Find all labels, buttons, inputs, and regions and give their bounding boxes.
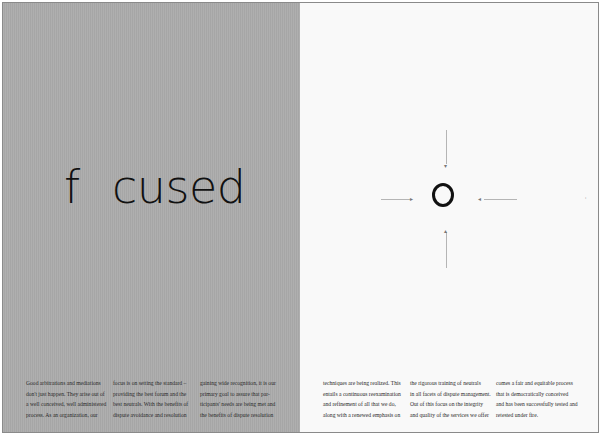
guide-line-left (381, 199, 411, 200)
text-line: along with a renewed emphasis on (323, 410, 375, 421)
text-line: the benefits of dispute resolution (200, 410, 252, 421)
text-line: and refinement of all that we do, (323, 399, 375, 410)
guide-line-top (446, 130, 447, 164)
text-line: in all facets of dispute management. (410, 389, 462, 400)
margin-mark: ' (585, 196, 586, 202)
text-line: Good arbitrations and mediations (26, 378, 78, 389)
text-line: focus is on setting the standard – (113, 378, 165, 389)
text-line: entails a continuous reexamination (323, 389, 375, 400)
text-line: ticipants' needs are being met and (200, 399, 252, 410)
text-line: dispute avoidance and resolution (113, 410, 165, 421)
text-line: retested under fire. (496, 410, 548, 421)
body-column-4: techniques are being realized. This enta… (323, 378, 375, 420)
left-page (3, 3, 300, 432)
body-column-3: gaining wide recognition, it is our prim… (200, 378, 252, 420)
arrow-left-icon: ◂ (478, 196, 481, 202)
text-line: the rigorous training of neutrals (410, 378, 462, 389)
body-column-6: comes a fair and equitable process that … (496, 378, 548, 420)
brochure-spread (3, 3, 598, 432)
body-column-2: focus is on setting the standard – provi… (113, 378, 165, 420)
guide-line-right (484, 199, 517, 200)
text-line: process. As an organization, our (26, 410, 78, 421)
arrow-up-icon: ▴ (444, 228, 447, 234)
text-line: and has been successfully tested and (496, 399, 548, 410)
text-line: don't just happen. They arise out of (26, 389, 78, 400)
guide-line-bottom (446, 232, 447, 268)
text-line: gaining wide recognition, it is our (200, 378, 252, 389)
text-line: that is democratically conceived (496, 389, 548, 400)
text-line: and quality of the services we offer (410, 410, 462, 421)
headline-f: f (64, 164, 80, 210)
arrow-right-icon: ▸ (410, 196, 413, 202)
right-page (300, 3, 598, 432)
body-column-1: Good arbitrations and mediations don't j… (26, 378, 78, 420)
body-column-5: the rigorous training of neutrals in all… (410, 378, 462, 420)
text-line: comes a fair and equitable process (496, 378, 548, 389)
headline-cused: cused (112, 164, 245, 210)
text-line: Out of this focus on the integrity (410, 399, 462, 410)
text-line: techniques are being realized. This (323, 378, 375, 389)
text-line: providing the best forum and the (113, 389, 165, 400)
text-line: primary goal to assure that par- (200, 389, 252, 400)
focus-o-letter (432, 183, 454, 207)
text-line: a well conceived, well administered (26, 399, 78, 410)
text-line: best neutrals. With the benefits of (113, 399, 165, 410)
arrow-down-icon: ▾ (444, 163, 447, 169)
